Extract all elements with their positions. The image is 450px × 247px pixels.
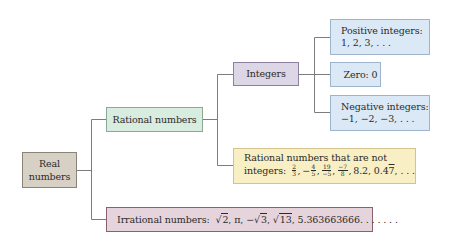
non-integers-title: Rational numbers that are not [244, 152, 415, 163]
non-integers-prefix: integers: [244, 165, 286, 176]
fraction-2-sign: − [302, 165, 310, 176]
negative-sqrt-3: −√3 [246, 214, 267, 226]
irrational-examples: Irrational numbers: √2, π, −√3, √13, 5.3… [117, 214, 398, 226]
negative-integers-examples: −1, −2, −3, . . . [341, 113, 429, 125]
integers-label: Integers [246, 68, 286, 80]
node-rational-numbers: Rational numbers [106, 107, 203, 132]
zero-label: Zero: 0 [343, 69, 377, 81]
positive-integers-examples: 1, 2, 3, . . . [341, 37, 429, 49]
node-real-numbers: Real numbers [22, 152, 77, 188]
node-negative-integers: Negative integers: −1, −2, −3, . . . [330, 95, 430, 131]
node-integers: Integers [233, 62, 299, 86]
fraction-2: 4 5 [311, 164, 316, 177]
decimal-8-2: 8.2, [353, 165, 371, 176]
rational-numbers-label: Rational numbers [112, 114, 196, 126]
separator: , [332, 165, 337, 176]
real-numbers-line2: numbers [29, 170, 71, 183]
real-number-tree-diagram: Real numbers Rational numbers Integers P… [0, 0, 450, 247]
fraction-1: 2 3 [292, 164, 297, 177]
non-integers-examples: integers: 2 3 , − 4 5 , 19 −5 , −7 8 , [244, 164, 415, 177]
repeating-decimal-base: 0.4 [374, 165, 389, 176]
node-irrational-numbers: Irrational numbers: √2, π, −√3, √13, 5.3… [106, 207, 373, 232]
ellipsis: , . . . [395, 165, 415, 176]
sqrt-3-sign: − [246, 214, 254, 225]
irrational-prefix: Irrational numbers: [117, 214, 210, 225]
fraction-4: −7 8 [338, 164, 348, 177]
real-numbers-line1: Real [39, 157, 60, 170]
separator: , [317, 165, 322, 176]
negative-integers-title: Negative integers: [341, 101, 429, 113]
pi-symbol: π [234, 214, 240, 225]
positive-integers-title: Positive integers: [341, 25, 429, 37]
node-rational-non-integers: Rational numbers that are not integers: … [233, 148, 416, 184]
sqrt-13: √13 [273, 214, 292, 226]
node-positive-integers: Positive integers: 1, 2, 3, . . . [330, 19, 430, 55]
node-zero: Zero: 0 [330, 62, 381, 87]
fraction-3: 19 −5 [322, 164, 331, 177]
sqrt-2: √2 [215, 214, 228, 226]
non-repeating-decimal: 5.363663666. . . . . . . [298, 214, 398, 225]
